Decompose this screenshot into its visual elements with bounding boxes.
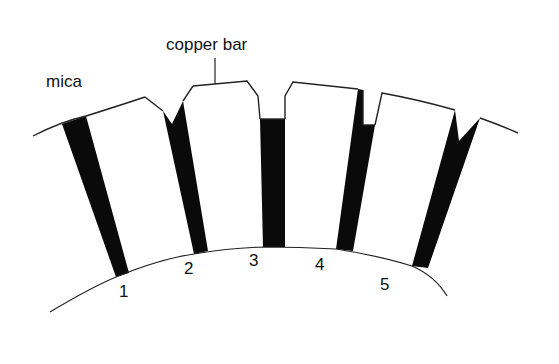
segment-number-5: 5: [380, 275, 389, 294]
copper-bar-label: copper bar: [166, 35, 248, 54]
mica-strips: [62, 89, 480, 277]
mica-strip-4: [336, 89, 375, 251]
mica-strip-1: [62, 116, 129, 277]
mica-strip-2: [163, 101, 208, 254]
mica-strip-5: [412, 110, 480, 268]
mica-strip-3: [260, 119, 285, 247]
commutator-diagram: copper bar mica 1 2 3 4 5: [0, 0, 559, 364]
segment-number-2: 2: [184, 259, 193, 278]
segment-number-1: 1: [119, 282, 128, 301]
mica-label: mica: [46, 72, 82, 91]
segment-number-3: 3: [249, 251, 258, 270]
segment-number-4: 4: [315, 255, 324, 274]
